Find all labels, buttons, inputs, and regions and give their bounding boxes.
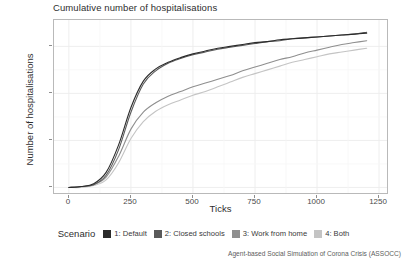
legend-label: 1: Default (114, 229, 147, 238)
gridlines (54, 20, 388, 194)
legend-item[interactable]: 4: Both (314, 229, 349, 238)
legend-swatch-icon (154, 230, 162, 238)
legend-item[interactable]: 1: Default (103, 229, 147, 238)
x-tick-mark (316, 195, 317, 198)
chart-figure: Cumulative number of hospitalisations Nu… (0, 0, 407, 269)
legend-swatch-icon (232, 230, 240, 238)
legend-label: 2: Closed schools (165, 229, 225, 238)
x-tick-mark (378, 195, 379, 198)
x-tick-mark (130, 195, 131, 198)
legend-title: Scenario (58, 228, 96, 239)
y-axis-label: Number of hospitalisations (24, 25, 35, 195)
legend-items: 1: Default2: Closed schools3: Work from … (103, 229, 349, 238)
legend-swatch-icon (103, 230, 111, 238)
x-tick-mark (192, 195, 193, 198)
y-tick-mark (49, 92, 52, 93)
chart-title: Cumulative number of hospitalisations (53, 2, 217, 13)
chart-legend: Scenario 1: Default2: Closed schools3: W… (0, 228, 407, 239)
legend-item[interactable]: 3: Work from home (232, 229, 307, 238)
plot-canvas (54, 20, 388, 194)
x-axis-label: Ticks (53, 203, 388, 214)
legend-item[interactable]: 2: Closed schools (154, 229, 225, 238)
y-tick-mark (49, 45, 52, 46)
x-tick-mark (254, 195, 255, 198)
legend-label: 4: Both (325, 229, 349, 238)
legend-label: 3: Work from home (243, 229, 307, 238)
legend-swatch-icon (314, 230, 322, 238)
x-tick-mark (68, 195, 69, 198)
y-tick-mark (49, 186, 52, 187)
series-line (69, 41, 367, 188)
figure-caption: Agent-based Social Simulation of Corona … (228, 250, 401, 257)
y-tick-mark (49, 139, 52, 140)
plot-area (53, 19, 388, 194)
